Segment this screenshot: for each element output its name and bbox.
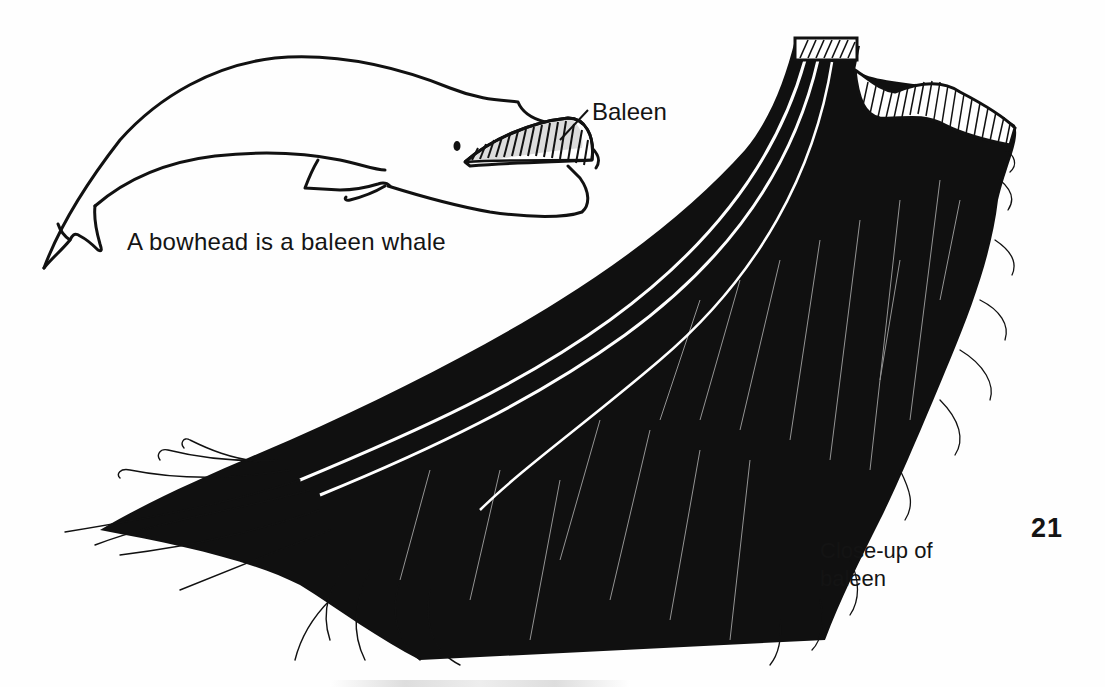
- book-page: Baleen A bowhead is a baleen whale Close…: [0, 0, 1105, 687]
- baleen-pointer-label: Baleen: [592, 98, 667, 126]
- page-number: 21: [1031, 513, 1063, 544]
- closeup-caption-line-2: baleen: [820, 565, 1020, 593]
- whale-caption: A bowhead is a baleen whale: [127, 228, 446, 256]
- scan-artifact: [330, 680, 630, 687]
- closeup-caption-line-1: Close-up of: [820, 537, 1020, 565]
- closeup-caption: Close-up of baleen: [820, 537, 1020, 593]
